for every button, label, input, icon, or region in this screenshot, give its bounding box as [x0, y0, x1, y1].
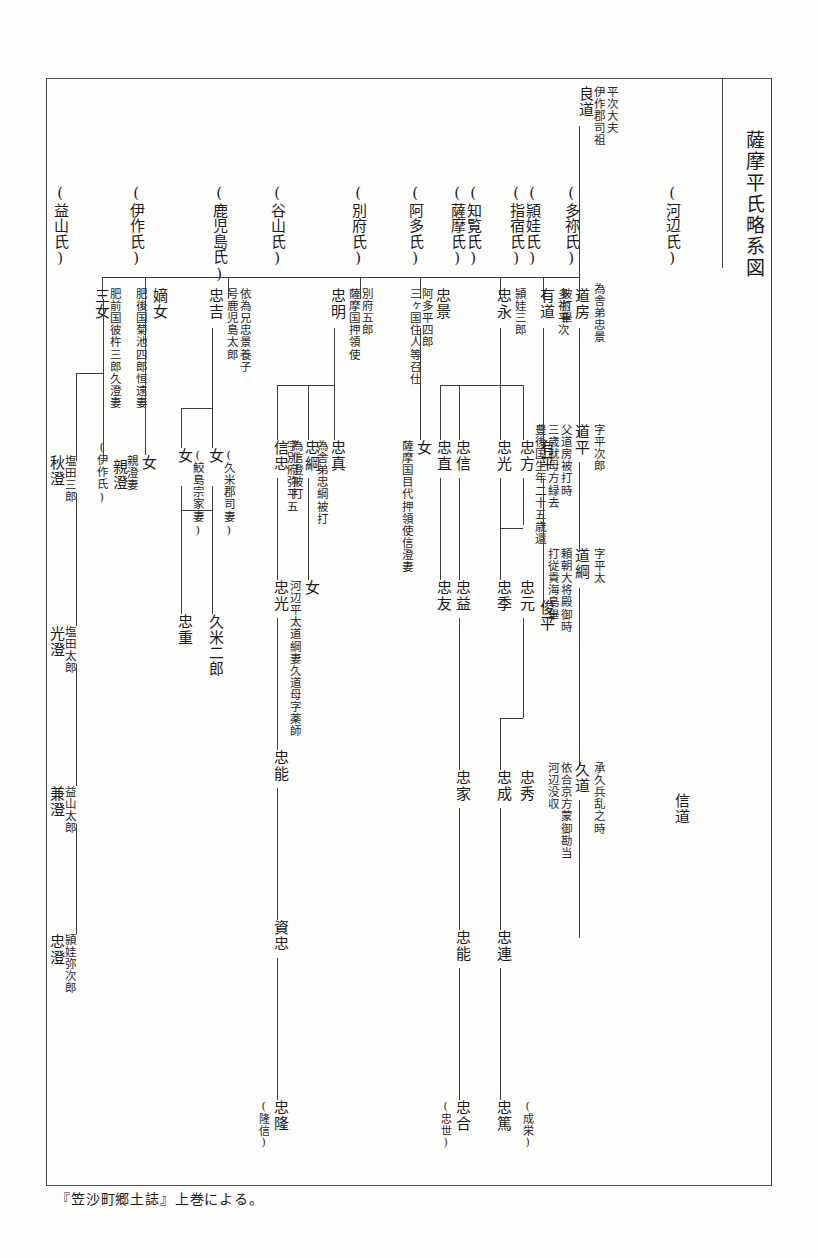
hisamichi-note-b: 河辺没収 — [546, 762, 558, 810]
michihira-name: 道平 — [573, 424, 588, 455]
kagoshima-d1-note: (久米郡司妻) — [222, 448, 234, 537]
tadaaki-note-b: 薩摩国押領使 — [347, 288, 359, 361]
clan-label-ibusuki: (指宿氏) — [508, 184, 523, 268]
tadakage-stem — [420, 328, 421, 440]
tadanari-drop — [500, 718, 501, 770]
masuyama-drop — [76, 373, 77, 461]
tadagen-name: 忠元 — [518, 580, 533, 611]
tadanaga-name: 忠永 — [495, 288, 510, 319]
tadaatsu-alt: (成栄) — [522, 1100, 533, 1150]
tadamasu-stem — [459, 618, 460, 770]
nobutada-d1: 忠光 — [272, 580, 287, 611]
clan-label-chiran: (知覧氏) — [465, 184, 480, 268]
clan-label-ei: (頴娃氏) — [524, 184, 539, 268]
child-tadamitsu: 忠光 — [495, 440, 510, 471]
tadayoshi-k-note-b: 号鹿児島太郎 — [225, 288, 237, 361]
izaku-tag: (伊作氏) — [95, 440, 107, 505]
tadamasu-name: 忠益 — [454, 580, 469, 611]
tadakage-daughter: 女 — [415, 440, 430, 456]
clan-label-ata: (阿多氏) — [407, 184, 422, 268]
nobutada-stem-1 — [277, 478, 278, 580]
tadayoshi-k-note-a: 依為兄忠景養子 — [238, 288, 250, 373]
tadanaga-drop-tadanao — [440, 385, 441, 440]
tadatsuna-daughter-note: 河辺平太道綱妻久道母字薬師 — [288, 580, 300, 738]
third-child: 親澄 — [111, 459, 126, 490]
tadakata-stem — [523, 478, 524, 525]
third-daughter: 三女 — [93, 288, 108, 319]
kagoshima-join — [181, 510, 212, 511]
tadakata-bar — [500, 385, 523, 386]
nobutada-d4-alt: (隆信) — [258, 1100, 269, 1150]
heir-child: 女 — [140, 455, 155, 471]
tadakata-drop — [523, 385, 524, 440]
masuyama-stem-3 — [76, 824, 77, 934]
child-tadatsuna: 忠綱 — [303, 440, 318, 471]
kagoshima-drop-d1 — [212, 408, 213, 448]
nobumichi-name: 信道 — [673, 793, 688, 824]
tadahide-name: 忠秀 — [518, 770, 533, 801]
child-tadanao: 忠直 — [435, 440, 450, 471]
clan-label-izaku: (伊作氏) — [128, 184, 143, 268]
tadagen-stem — [523, 618, 524, 718]
tadatsura-stem — [500, 968, 501, 1100]
nobutada-d4: 忠隆 — [272, 1100, 287, 1131]
kume-jiro-name: 久米二郎 — [207, 614, 222, 676]
nobutada-note: 字別府弥平五 — [285, 440, 297, 513]
genealogy-page: 薩摩平氏略系図 平次大夫 伊作郡司祖 良道 (益山氏) (伊作氏) (鹿児島氏)… — [0, 0, 818, 1258]
tadaai-name: 忠合 — [454, 1100, 469, 1131]
tadanaga-children-bar-2 — [440, 385, 472, 386]
tadanari-name: 忠成 — [495, 770, 510, 801]
nobutada-stem-2 — [277, 618, 278, 750]
kagoshima-d1-stem — [212, 486, 213, 614]
source-caption: 『笠沙町郷土誌』上巻による。 — [56, 1188, 264, 1208]
tadanao-stem — [440, 478, 441, 580]
michihira-note-right: 字平次郎 — [592, 424, 604, 472]
heir-daughter-stem — [145, 299, 146, 455]
kawanabe-stem-2 — [579, 462, 580, 552]
arimichi-name: 有道 — [538, 288, 553, 319]
michihira-note-a: 父道房被打時 — [559, 424, 571, 497]
tadatsuna-stem — [308, 478, 309, 580]
kagoshima-d2: 女 — [176, 448, 191, 464]
masuyama-stem-1 — [76, 493, 77, 626]
clan-label-satsuma: (薩摩氏) — [449, 184, 464, 268]
third-daughter-stem — [103, 299, 104, 459]
tadanaga-note: 頴娃三郎 — [513, 288, 525, 336]
tadayoshi-name: 忠能 — [454, 930, 469, 961]
arihira-name: 有平 — [538, 440, 553, 471]
tadatsura-name: 忠連 — [495, 930, 510, 961]
shunpei-name: 俊平 — [538, 600, 553, 631]
tadaki-drop — [500, 528, 501, 580]
tadakage-note-b: 三ヶ国住人等召仕 — [408, 288, 420, 385]
beppu-drop-tadatsuna — [308, 385, 309, 440]
tadakage-name: 忠景 — [434, 288, 449, 319]
tadaaki-stem — [334, 328, 335, 385]
beppu-children-bar — [277, 385, 334, 386]
tadaie-stem — [459, 808, 460, 930]
izaku-to-masuyama-bar — [76, 373, 103, 374]
kagoshima-d2-stem — [181, 486, 182, 614]
michitsuna-note-right: 字平太 — [592, 548, 604, 584]
tadashige-name: 忠重 — [176, 614, 191, 645]
page-title: 薩摩平氏略系図 — [744, 130, 763, 279]
tadatsuna-daughter: 女 — [303, 580, 318, 596]
clan-label-kawanabe: (河辺氏) — [664, 184, 679, 268]
clan-label-taniyama: (谷山氏) — [269, 184, 284, 268]
child-tadashin: 忠信 — [454, 440, 469, 471]
masuyama-stem-2 — [76, 664, 77, 786]
clan-label-tane: (多祢氏) — [563, 184, 578, 268]
tadayoshi-k-name: 忠吉 — [207, 288, 222, 319]
clan-label-kagoshima: (鹿児島氏) — [211, 184, 226, 284]
arimichi-note: 多祢平次 — [556, 288, 568, 336]
tadaie-name: 忠家 — [454, 770, 469, 801]
tadayoshi-stem — [459, 968, 460, 1100]
kagoshima-children-bar — [181, 408, 212, 409]
michitsuna-note-a: 頼朝大将殿御時 — [559, 548, 571, 633]
tadanaga-drop-tadamitsu — [500, 328, 501, 440]
clan-label-masuyama: (益山氏) — [52, 184, 67, 268]
masuyama-g1: 秋澄 — [48, 455, 63, 486]
root-name-ryodo: 良道 — [577, 86, 592, 117]
tadanaga-drop-tadashin — [459, 385, 460, 440]
tadakage-daughter-note: 薩摩国目代押領使信澄妻 — [400, 440, 412, 573]
tane-stem-2 — [543, 478, 544, 608]
